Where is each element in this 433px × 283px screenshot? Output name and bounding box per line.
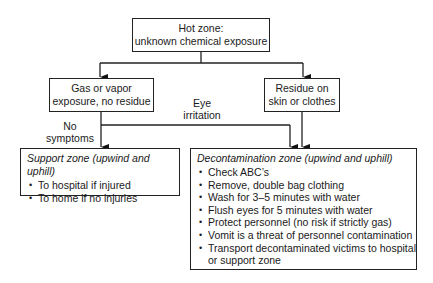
list-item: To hospital if injured [29, 179, 179, 192]
list-item: Wash for 3–5 minutes with water [199, 191, 416, 204]
no-symptoms-line1: No [42, 120, 98, 132]
residue-box-line2: skin or clothes [268, 95, 335, 108]
support-zone-box: Support zone (upwind and uphill) To hosp… [20, 148, 180, 196]
gas-vapor-box: Gas or vapor exposure, no residue [49, 78, 154, 112]
hot-zone-title: Hot zone: [179, 22, 224, 35]
list-item: To home if no injuries [29, 192, 179, 205]
list-item: Flush eyes for 5 minutes with water [199, 204, 416, 217]
gas-box-line2: exposure, no residue [52, 95, 150, 108]
eye-irritation-line1: Eye [178, 97, 226, 109]
list-item: Transport decontaminated victims to hosp… [199, 242, 416, 267]
support-zone-title: Support zone (upwind and uphill) [27, 152, 179, 178]
decon-zone-title: Decontamination zone (upwind and uphill) [197, 152, 416, 165]
no-symptoms-line2: symptoms [42, 132, 98, 144]
eye-irritation-line2: irritation [178, 109, 226, 121]
list-item: Check ABC’s [199, 166, 416, 179]
list-item: Protect personnel (no risk if strictly g… [199, 216, 416, 229]
no-symptoms-label: No symptoms [42, 120, 98, 144]
residue-box: Residue on skin or clothes [264, 78, 340, 112]
decon-zone-list: Check ABC’s Remove, double bag clothing … [191, 166, 416, 267]
decontamination-zone-box: Decontamination zone (upwind and uphill)… [190, 148, 417, 270]
gas-box-line1: Gas or vapor [71, 82, 132, 95]
hot-zone-box: Hot zone: unknown chemical exposure [132, 18, 270, 52]
eye-irritation-label: Eye irritation [178, 97, 226, 121]
support-zone-list: To hospital if injured To home if no inj… [21, 179, 179, 204]
residue-box-line1: Residue on [275, 82, 328, 95]
list-item: Vomit is a threat of personnel contamina… [199, 229, 416, 242]
list-item: Remove, double bag clothing [199, 179, 416, 192]
hot-zone-subtitle: unknown chemical exposure [135, 35, 268, 48]
